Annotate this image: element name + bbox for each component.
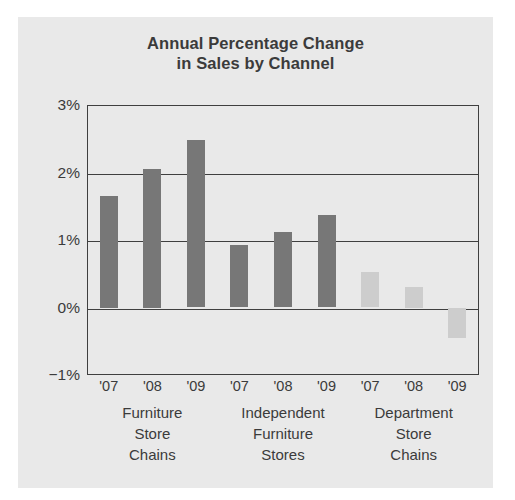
y-axis-tick-labels: 3%2%1%0%−1%	[18, 105, 80, 375]
group-label: FurnitureStoreChains	[82, 402, 222, 465]
group-label-line: Chains	[344, 444, 484, 465]
group-label-line: Furniture	[82, 402, 222, 423]
y-tick-label-3: 0%	[18, 300, 80, 316]
group-label-line: Store	[82, 423, 222, 444]
group-label-line: Independent	[213, 402, 353, 423]
bar	[143, 169, 161, 307]
x-tick-label: '09	[174, 377, 218, 395]
bar	[318, 215, 336, 307]
x-tick-label: '07	[87, 377, 131, 395]
group-label: IndependentFurnitureStores	[213, 402, 353, 465]
y-tick-label-0: 3%	[18, 97, 80, 113]
group-label-line: Furniture	[213, 423, 353, 444]
bars-layer	[87, 105, 479, 375]
group-label-line: Stores	[213, 444, 353, 465]
bar	[405, 287, 423, 307]
x-tick-label: '09	[435, 377, 479, 395]
group-category-labels: FurnitureStoreChainsIndependentFurniture…	[87, 402, 479, 482]
group-label: DepartmentStoreChains	[344, 402, 484, 465]
x-tick-label: '07	[217, 377, 261, 395]
x-tick-label: '08	[392, 377, 436, 395]
y-tick-label-2: 1%	[18, 232, 80, 248]
x-tick-label: '07	[348, 377, 392, 395]
y-tick-label-1: 2%	[18, 165, 80, 181]
chart-figure: Annual Percentage Change in Sales by Cha…	[18, 17, 493, 488]
bar	[448, 308, 466, 338]
chart-title-line-2: in Sales by Channel	[18, 53, 493, 73]
x-axis-tick-labels: '07'08'09'07'08'09'07'08'09	[87, 377, 479, 399]
x-tick-label: '08	[130, 377, 174, 395]
bar	[274, 232, 292, 308]
x-tick-label: '08	[261, 377, 305, 395]
bar	[230, 245, 248, 308]
x-tick-label: '09	[305, 377, 349, 395]
bar	[100, 196, 118, 307]
bar	[187, 140, 205, 307]
group-label-line: Department	[344, 402, 484, 423]
chart-title: Annual Percentage Change in Sales by Cha…	[18, 33, 493, 73]
bar	[361, 272, 379, 307]
group-label-line: Store	[344, 423, 484, 444]
chart-title-line-1: Annual Percentage Change	[18, 33, 493, 53]
y-tick-label-4: −1%	[18, 367, 80, 383]
group-label-line: Chains	[82, 444, 222, 465]
